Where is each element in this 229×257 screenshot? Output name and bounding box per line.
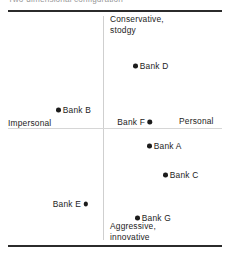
point-label: Bank B: [63, 105, 91, 115]
scatter-point-bank-e: Bank E: [53, 200, 88, 209]
point-marker-dot-icon: [133, 63, 138, 68]
scatter-point-bank-f: Bank F: [117, 118, 152, 127]
point-marker-dot-icon: [147, 143, 152, 148]
top-rule: [8, 10, 222, 12]
point-label: Bank D: [140, 61, 169, 71]
axis-pole-label-bottom: Aggressive, innovative: [110, 221, 156, 242]
bottom-rule: [8, 245, 222, 247]
point-marker-dot-icon: [83, 201, 88, 206]
two-dimensional-configuration-figure: Two-dimensional configuration Conservati…: [0, 0, 229, 257]
scatter-point-bank-a: Bank A: [147, 142, 182, 151]
axis-pole-label-right: Personal: [179, 116, 214, 127]
figure-caption-clipped: Two-dimensional configuration: [8, 0, 208, 6]
point-marker-dot-icon: [147, 119, 152, 124]
point-marker-dot-icon: [163, 172, 168, 177]
point-label: Bank A: [154, 141, 182, 151]
point-label: Bank G: [142, 213, 171, 223]
point-marker-dot-icon: [56, 107, 61, 112]
axis-pole-label-left: Impersonal: [8, 118, 51, 129]
scatter-point-bank-d: Bank D: [133, 62, 168, 71]
scatter-point-bank-c: Bank C: [163, 171, 198, 180]
point-label: Bank C: [170, 170, 199, 180]
scatter-point-bank-b: Bank B: [56, 106, 91, 115]
scatter-point-bank-g: Bank G: [135, 214, 171, 223]
point-label: Bank F: [117, 117, 145, 127]
point-label: Bank E: [53, 199, 81, 209]
point-marker-dot-icon: [135, 215, 140, 220]
figure-caption-text: Two-dimensional configuration: [8, 0, 208, 6]
axis-pole-label-top: Conservative, stodgy: [110, 14, 164, 35]
